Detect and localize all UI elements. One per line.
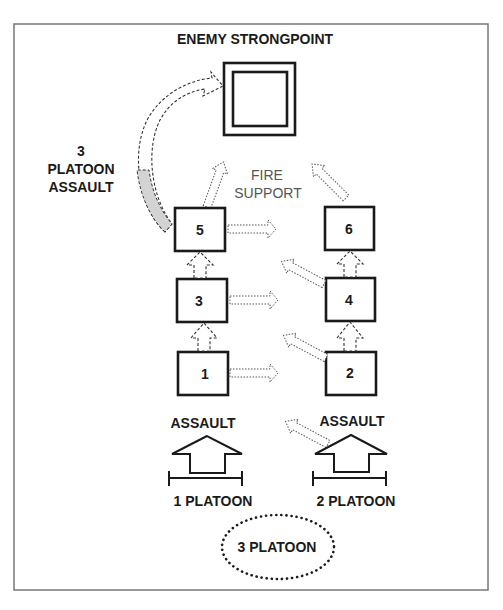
fire-support-line1: FIRE xyxy=(251,167,283,183)
section-box-6: 6 xyxy=(325,207,374,250)
section-box-5: 5 xyxy=(175,208,225,251)
platoon-1-label: 1 PLATOON xyxy=(174,493,253,509)
svg-text:5: 5 xyxy=(196,222,204,238)
enemy-strongpoint-icon xyxy=(224,63,295,135)
side-label-line2: PLATOON xyxy=(47,161,114,177)
tactical-diagram: ENEMY STRONGPOINT 3 PLATOON ASSAULT FIRE… xyxy=(0,0,503,610)
svg-text:2: 2 xyxy=(346,365,354,381)
svg-text:4: 4 xyxy=(345,292,353,308)
svg-text:3: 3 xyxy=(195,293,203,309)
svg-text:6: 6 xyxy=(345,221,353,237)
fire-support-line2: SUPPORT xyxy=(234,185,302,201)
section-box-4: 4 xyxy=(326,278,375,321)
enemy-strongpoint-title: ENEMY STRONGPOINT xyxy=(177,31,334,47)
section-box-2: 2 xyxy=(326,352,376,395)
side-label-line1: 3 xyxy=(77,143,85,159)
section-box-3: 3 xyxy=(177,279,227,322)
reserve-platoon-label: 3 PLATOON xyxy=(238,539,317,555)
side-label-line3: ASSAULT xyxy=(48,179,114,195)
svg-text:1: 1 xyxy=(201,366,209,382)
platoon-2-label: 2 PLATOON xyxy=(317,493,396,509)
section-box-1: 1 xyxy=(178,352,228,395)
left-assault-label: ASSAULT xyxy=(170,415,236,431)
right-assault-label: ASSAULT xyxy=(319,413,385,429)
